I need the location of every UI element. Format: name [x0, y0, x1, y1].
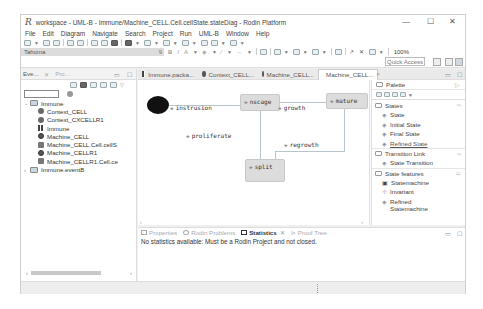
explorer-horizontal-scrollbar[interactable]: ‹ › [23, 270, 135, 276]
palette-header[interactable]: Palette ▷ [372, 80, 465, 90]
select-all-icon[interactable] [260, 49, 267, 55]
edge-proliferate[interactable] [260, 111, 261, 159]
state-mature[interactable]: ◈mature [326, 93, 368, 109]
edge-regrowth-horizontal[interactable] [275, 151, 345, 152]
pin-icon[interactable]: ⇨ [457, 151, 461, 157]
maximize-view-icon[interactable]: ☐ [127, 71, 132, 78]
menu-umlb[interactable]: UML-B [199, 30, 219, 37]
font-size-select[interactable]: 9 [146, 48, 164, 56]
tab-machine-cell-statediagram[interactable]: Machine_CELL... ✕ [318, 69, 378, 80]
prover-icon[interactable] [91, 40, 98, 46]
arrange-dropdown-icon[interactable]: ▼ [284, 49, 289, 55]
close-tab-icon[interactable]: ✕ [280, 229, 285, 236]
menu-project[interactable]: Project [153, 30, 173, 37]
prev-dropdown-icon[interactable]: ▼ [221, 40, 226, 46]
umlb-perspective-icon[interactable] [455, 58, 463, 66]
font-color-button[interactable]: A [184, 49, 188, 55]
drawer-states[interactable]: States ⇨ [372, 100, 465, 110]
annotation-dropdown-icon[interactable]: ▼ [173, 40, 178, 46]
arrange-icon[interactable] [274, 49, 281, 55]
tree-item-immune-package[interactable]: Immune [24, 124, 136, 132]
route-icon[interactable]: ↗ [349, 48, 354, 55]
transition-label-regrowth[interactable]: ◈regrowth [284, 141, 319, 148]
tab-machine-cell[interactable]: Machine_CELL... [258, 69, 318, 80]
scroll-right-icon[interactable]: › [127, 270, 135, 276]
view-dropdown-icon[interactable]: ▼ [379, 49, 384, 55]
tab-immune-package[interactable]: Immune.packa... [138, 69, 198, 80]
select-tool-icon[interactable] [376, 92, 382, 97]
zoom-level[interactable]: 100% [394, 49, 409, 55]
forward-dropdown-icon[interactable]: ▼ [240, 40, 245, 46]
link-icon[interactable] [335, 49, 342, 55]
palette-item-invariant[interactable]: ✢Invariant [372, 187, 465, 197]
align-icon[interactable] [293, 49, 300, 55]
palette-item-state[interactable]: ◈State [372, 110, 465, 120]
hide-palette-icon[interactable]: ▷ [455, 81, 460, 88]
fill-color-icon[interactable]: ◈ [202, 48, 207, 55]
palette-item-refined-state[interactable]: ◈Refined State [372, 139, 465, 149]
zoom-in-tool-icon[interactable] [384, 92, 390, 97]
palette-item-state-transition[interactable]: ◈State Transition [372, 158, 465, 168]
new-project-icon[interactable] [110, 82, 117, 88]
back-icon[interactable] [201, 40, 208, 46]
note-tool-icon[interactable] [400, 92, 406, 97]
canvas-scrollbar[interactable]: ‹ › [138, 219, 369, 225]
initial-state-node[interactable] [147, 96, 169, 114]
transition-label-instrusion[interactable]: ◈instrusion [170, 104, 212, 111]
state-split[interactable]: ◈split [245, 159, 285, 182]
marker-icon[interactable] [182, 40, 189, 46]
menu-window[interactable]: Window [226, 30, 249, 37]
line-color-icon[interactable]: ⁄ [221, 49, 222, 55]
state-nscage[interactable]: ◈nscage [240, 94, 280, 111]
quick-access-input[interactable]: Quick Access [385, 57, 425, 66]
close-tab-icon[interactable]: ✕ [376, 69, 380, 80]
pin-icon[interactable]: ▭ [456, 170, 461, 176]
menu-file[interactable]: File [25, 30, 35, 37]
scroll-thumb[interactable] [31, 271, 101, 275]
link-editor-icon[interactable] [90, 82, 97, 88]
scroll-left-icon[interactable]: ‹ [140, 219, 142, 225]
scroll-right-icon[interactable]: › [361, 219, 363, 225]
size-icon[interactable] [312, 49, 319, 55]
tree-item-machine-cell[interactable]: Machine_CELL [24, 132, 136, 140]
align-dropdown-icon[interactable]: ▼ [303, 49, 308, 55]
palette-item-refined-statemachine[interactable]: ◈Refined Statemachine [372, 197, 465, 213]
maximize-editor-icon[interactable]: ☐ [457, 71, 462, 78]
marker-dropdown-icon[interactable]: ▼ [192, 40, 197, 46]
gear-icon[interactable] [80, 82, 87, 88]
minimize-view-icon[interactable]: ▭ [445, 230, 451, 237]
drawer-transition-link[interactable]: Transition Link ⇨ [372, 148, 465, 158]
collapse-all-icon[interactable] [70, 82, 77, 88]
zoom-out-tool-icon[interactable] [392, 92, 398, 97]
palette-item-final-state[interactable]: ◈Final State [372, 129, 465, 139]
redo-icon[interactable] [77, 40, 84, 46]
tree-item-immune-eventb[interactable]: › Immune.eventB [24, 165, 136, 173]
prev-icon[interactable] [211, 40, 218, 46]
tab-close-icon[interactable]: ✕ [44, 71, 49, 78]
annotation-icon[interactable] [163, 40, 170, 46]
palette-item-initial-state[interactable]: ◈Initial State [372, 120, 465, 130]
filter-input[interactable] [24, 90, 59, 98]
edge-regrowth-vertical[interactable] [344, 109, 345, 151]
line-style-icon[interactable]: → [236, 49, 242, 55]
run-icon[interactable] [101, 40, 108, 46]
palette-item-statemachine[interactable]: ▣Statemachine [372, 178, 465, 188]
tab-context-cell[interactable]: Context_CELL... [198, 69, 258, 80]
view-menu-icon[interactable]: ▽ [120, 82, 124, 88]
tab-project-explorer[interactable]: Pro... [55, 71, 69, 77]
scroll-left-icon[interactable]: ‹ [23, 270, 31, 276]
tree-item-context-cell[interactable]: Context_CELL [24, 107, 136, 115]
maximize-button[interactable]: ☐ [419, 15, 441, 29]
transition-label-proliferate[interactable]: ◈proliferate [186, 132, 231, 139]
open-perspective-icon[interactable] [433, 58, 441, 66]
state-diagram-canvas[interactable]: ◈nscage ◈mature ◈split ◈instrusion ◈grow… [138, 80, 370, 225]
new-dropdown-icon[interactable]: ▼ [34, 40, 39, 46]
save-icon[interactable] [43, 40, 50, 46]
tab-event-b-explorer[interactable]: Eve... [23, 71, 38, 77]
tree-item-machine-cell-statemachine[interactable]: Machine_CELL.Cell.cellS [24, 140, 136, 148]
italic-button[interactable]: I [177, 49, 179, 55]
menu-navigate[interactable]: Navigate [92, 30, 118, 37]
minimize-editor-icon[interactable]: ▭ [445, 71, 451, 78]
pen-icon[interactable] [144, 40, 151, 46]
close-button[interactable]: ✕ [441, 15, 463, 29]
